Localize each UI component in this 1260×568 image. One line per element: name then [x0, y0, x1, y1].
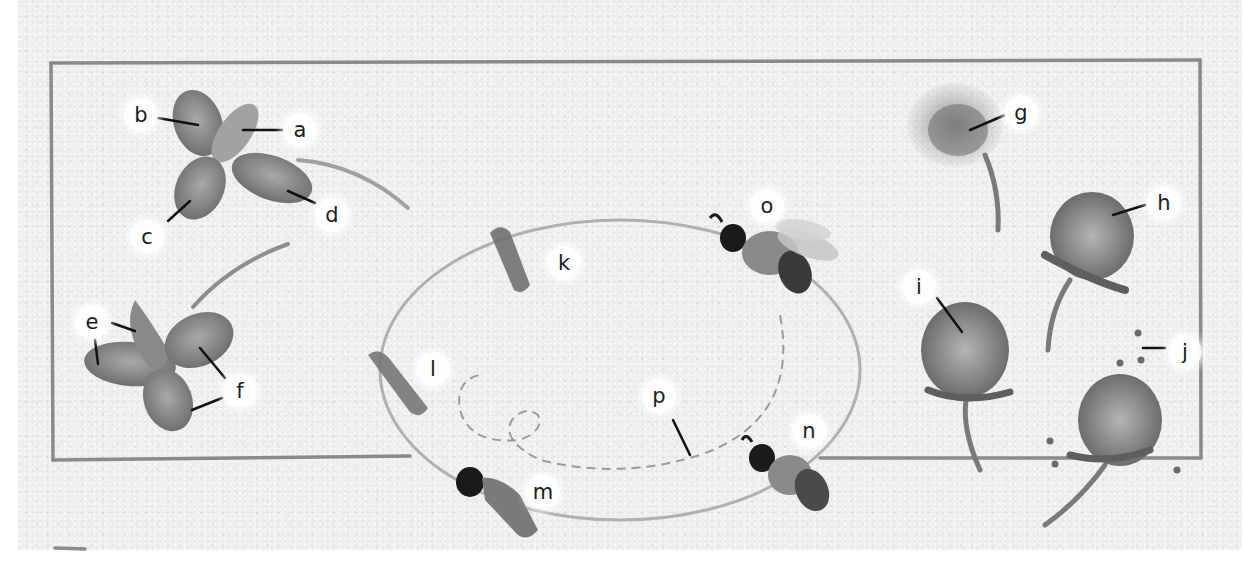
label-f: f [223, 374, 257, 408]
bee-m [456, 467, 538, 538]
pollen-load-k [490, 227, 530, 292]
leaf-lower-left [82, 244, 288, 438]
label-p: p [642, 379, 676, 413]
leaf-upper-left [164, 83, 408, 228]
label-h: h [1147, 186, 1181, 220]
label-o: o [750, 189, 784, 223]
label-d: d [315, 198, 349, 232]
label-a: a [283, 113, 317, 147]
label-c: c [130, 220, 164, 254]
bee-n [742, 436, 836, 516]
label-m: m [526, 475, 560, 509]
label-e: e [75, 305, 109, 339]
label-i: i [902, 270, 936, 304]
label-k: k [547, 246, 581, 280]
label-l: l [416, 352, 450, 386]
label-n: n [792, 414, 826, 448]
bee-o [710, 215, 842, 298]
label-b: b [124, 98, 158, 132]
label-j: j [1168, 335, 1202, 369]
illustration [0, 0, 1260, 568]
label-g: g [1004, 96, 1038, 130]
